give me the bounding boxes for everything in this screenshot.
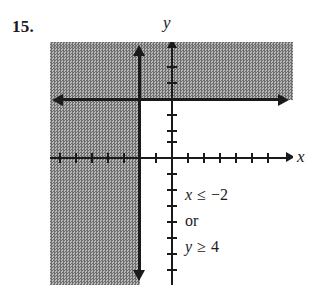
coordinate-plane: x ≤ −2 or y ≥ 4	[50, 42, 293, 285]
inequality-line-3: y ≥ 4	[185, 234, 228, 260]
y-axis-tick	[167, 253, 177, 255]
inequality-2-relation: ≥	[196, 238, 207, 255]
boundary-line-x-down-arrow-icon	[133, 270, 145, 281]
inequality-1-relation: ≤	[196, 186, 207, 203]
y-axis-tick	[167, 141, 177, 143]
boundary-line-y-equals-4	[62, 98, 280, 101]
shaded-region-x-le-neg2	[50, 42, 140, 285]
x-axis-tick	[187, 153, 189, 163]
y-axis-tick	[167, 237, 177, 239]
problem-number-label: 15.	[12, 18, 34, 35]
inequality-annotation: x ≤ −2 or y ≥ 4	[185, 182, 228, 260]
y-axis-tick	[167, 269, 177, 271]
y-axis-tick	[167, 130, 177, 132]
x-axis-tick	[203, 153, 205, 163]
boundary-line-y-right-arrow-icon	[278, 94, 289, 106]
y-axis-tick	[167, 205, 177, 207]
inequality-1-value: −2	[211, 186, 228, 203]
inequality-line-1: x ≤ −2	[185, 182, 228, 208]
y-axis-tick	[167, 189, 177, 191]
x-axis-tick	[267, 153, 269, 163]
y-axis-tick	[167, 82, 177, 84]
y-axis-tick	[167, 173, 177, 175]
y-axis-arrow-icon	[167, 42, 177, 48]
x-axis-tick	[251, 153, 253, 163]
x-axis-label: x	[297, 148, 305, 165]
exercise-figure: 15.	[0, 0, 315, 299]
x-axis-arrow-icon	[286, 152, 293, 162]
y-axis-tick	[167, 66, 177, 68]
inequality-conjunction: or	[185, 208, 228, 234]
x-axis-tick	[107, 153, 109, 163]
x-axis-tick	[75, 153, 77, 163]
boundary-line-x-equals-neg2	[138, 54, 141, 272]
x-axis-tick	[91, 153, 93, 163]
x-axis-tick	[235, 153, 237, 163]
shaded-region-y-ge-4	[140, 42, 293, 100]
x-axis-tick	[219, 153, 221, 163]
inequality-1-variable: x	[185, 186, 192, 203]
boundary-line-x-up-arrow-icon	[133, 45, 145, 56]
x-axis-tick	[155, 153, 157, 163]
boundary-line-y-left-arrow-icon	[52, 94, 63, 106]
y-axis-label: y	[163, 14, 171, 31]
x-axis-tick	[59, 153, 61, 163]
y-axis-tick	[167, 221, 177, 223]
y-axis-tick	[167, 114, 177, 116]
x-axis-tick	[123, 153, 125, 163]
inequality-2-variable: y	[185, 238, 192, 255]
inequality-2-value: 4	[211, 238, 219, 255]
